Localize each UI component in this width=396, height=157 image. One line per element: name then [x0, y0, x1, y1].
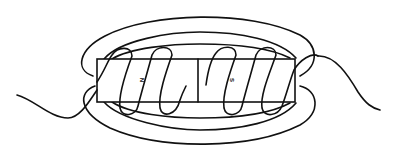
south-pole-label: S [229, 78, 235, 82]
field-line-top-inner [112, 44, 290, 59]
field-line-top-middle [104, 32, 296, 59]
right-lead-wire [318, 56, 380, 110]
bar-magnet [97, 59, 295, 102]
north-pole-label: N [139, 78, 145, 82]
field-line-bottom-middle [104, 102, 296, 130]
magnet-coil-diagram: N S [0, 0, 396, 157]
diagram-drawing [0, 0, 396, 157]
